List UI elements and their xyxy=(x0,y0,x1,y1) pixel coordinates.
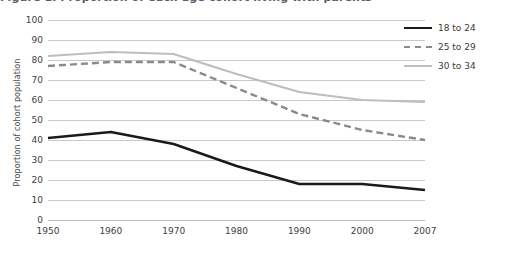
series-lines xyxy=(48,20,425,220)
y-axis-title: Proportion of cohort population xyxy=(13,38,22,208)
x-tick-label: 1980 xyxy=(225,226,248,236)
legend-label: 18 to 24 xyxy=(438,23,476,33)
x-tick-label: 1970 xyxy=(162,226,185,236)
plot-area: 0102030405060708090100 19501960197019801… xyxy=(48,20,425,220)
x-tick-label: 1950 xyxy=(37,226,60,236)
y-tick-label: 0 xyxy=(37,215,43,225)
y-tick-label: 70 xyxy=(32,75,43,85)
legend-swatch-icon xyxy=(404,61,432,71)
y-tick-label: 40 xyxy=(32,135,43,145)
legend-label: 25 to 29 xyxy=(438,42,476,52)
y-tick-label: 20 xyxy=(32,175,43,185)
gridline xyxy=(48,220,425,221)
x-tick-label: 2007 xyxy=(414,226,437,236)
series-line-18-to-24 xyxy=(48,132,425,190)
y-tick-label: 100 xyxy=(26,15,43,25)
y-tick-label: 30 xyxy=(32,155,43,165)
legend-item-30-to-34[interactable]: 30 to 34 xyxy=(404,58,508,74)
chart-legend: 18 to 2425 to 2930 to 34 xyxy=(404,20,508,77)
series-line-30-to-34 xyxy=(48,52,425,102)
y-tick-label: 50 xyxy=(32,115,43,125)
y-tick-label: 90 xyxy=(32,35,43,45)
legend-label: 30 to 34 xyxy=(438,61,476,71)
chart-title: Figure 1. Proportion of each age cohort … xyxy=(0,0,510,5)
y-tick-label: 80 xyxy=(32,55,43,65)
y-tick-label: 10 xyxy=(32,195,43,205)
y-tick-label: 60 xyxy=(32,95,43,105)
legend-item-18-to-24[interactable]: 18 to 24 xyxy=(404,20,508,36)
legend-swatch-icon xyxy=(404,23,432,33)
x-tick-label: 2000 xyxy=(351,226,374,236)
x-tick-label: 1960 xyxy=(99,226,122,236)
x-tick-label: 1990 xyxy=(288,226,311,236)
line-chart: Figure 1. Proportion of each age cohort … xyxy=(0,0,510,256)
legend-swatch-icon xyxy=(404,42,432,52)
legend-item-25-to-29[interactable]: 25 to 29 xyxy=(404,39,508,55)
